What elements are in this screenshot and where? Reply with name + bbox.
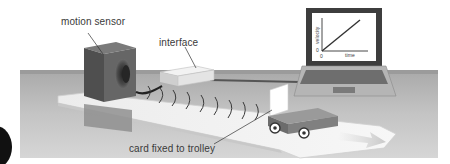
interface-label: interface: [159, 37, 198, 48]
motion-sensor-label: motion sensor: [61, 16, 125, 27]
graph-origin-y: 0: [316, 47, 319, 53]
card-label: card fixed to trolley: [129, 143, 215, 154]
motion-sensor: [84, 42, 136, 102]
graph-x-label: time: [345, 52, 355, 58]
graph-y-label: velocity: [314, 27, 320, 44]
diagram: motion sensor interface card fixed to tr…: [0, 0, 450, 164]
graph-origin-x: 0: [320, 53, 323, 59]
card: [270, 84, 288, 116]
